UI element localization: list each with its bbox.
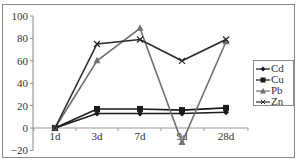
y-tick-label: −20	[11, 144, 29, 156]
axes: 100806040200−201d3d7d9d28d	[11, 10, 248, 156]
square-marker-icon	[256, 74, 270, 85]
series-pb	[52, 24, 230, 145]
y-tick-label: 60	[17, 55, 29, 67]
x-tick-label: 7d	[135, 130, 147, 142]
y-tick-label: 80	[17, 32, 29, 44]
y-tick-label: 0	[23, 122, 29, 134]
diamond-marker-icon	[256, 63, 270, 74]
x-tick-label: 1d	[50, 130, 62, 142]
series-lines	[52, 24, 230, 145]
x-tick-label: 3d	[92, 130, 104, 142]
x-marker-icon	[256, 96, 270, 107]
y-tick-label: 20	[17, 100, 29, 112]
legend-label: Zn	[271, 96, 283, 107]
y-tick-label: 100	[12, 10, 29, 22]
triangle-marker-icon	[256, 85, 270, 96]
x-tick-label: 28d	[218, 130, 235, 142]
chart-legend: Cd Cu Pb Zn	[253, 60, 294, 106]
series-cu	[52, 105, 229, 131]
legend-item-zn: Zn	[256, 96, 294, 107]
y-tick-label: 40	[17, 77, 29, 89]
